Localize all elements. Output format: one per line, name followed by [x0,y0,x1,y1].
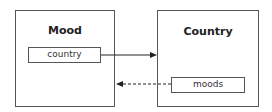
solid-arrow-icon [101,52,157,58]
dashed-arrow-icon [116,81,171,87]
relation-arrows [0,0,272,112]
